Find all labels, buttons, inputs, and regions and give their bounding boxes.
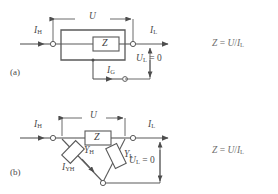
label-current-il-a: IL	[150, 26, 157, 36]
terminal-common-b	[100, 180, 105, 185]
panel-a-schematic	[20, 19, 168, 81]
panel-tag-b: (b)	[10, 168, 21, 177]
admittance-yh-box	[62, 141, 85, 164]
label-voltage-ul-b: UL = 0	[129, 156, 155, 166]
label-current-ih-a: IH	[34, 26, 42, 36]
panel-tag-a: (a)	[10, 68, 20, 77]
label-dimension-u-a: U	[89, 12, 96, 22]
terminal-right-a	[130, 41, 135, 46]
label-current-ih-b: IH	[34, 120, 42, 130]
figure-canvas: (a) IH U Z IL IG UL = 0 Z = U/IL (b) IH …	[0, 0, 278, 194]
label-current-iyh: IYH	[62, 163, 75, 173]
label-voltage-ul-a: UL = 0	[136, 54, 162, 64]
label-impedance-z-b: Z	[94, 132, 100, 142]
label-impedance-z-a: Z	[102, 38, 108, 48]
panel-b-schematic	[20, 118, 168, 186]
label-admittance-yh: YH	[84, 146, 94, 156]
terminal-left-b	[50, 135, 55, 140]
label-dimension-u-b: U	[90, 111, 97, 121]
terminal-left-a	[50, 41, 55, 46]
junction-dot-a	[92, 59, 95, 62]
label-current-il-b: IL	[148, 120, 155, 130]
formula-a: Z = U/IL	[212, 39, 244, 49]
formula-b: Z = U/IL	[212, 146, 244, 156]
terminal-right-b	[130, 135, 135, 140]
current-arrow-iyh	[82, 159, 94, 172]
label-current-ig-a: IG	[107, 66, 115, 76]
